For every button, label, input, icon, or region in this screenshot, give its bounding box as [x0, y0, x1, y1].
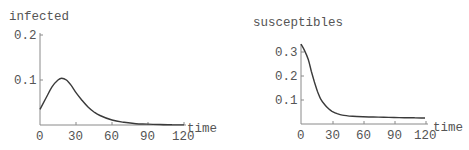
- infected-plot: infected 0.2 0.1 0 30 60 90 120 time: [9, 10, 217, 144]
- infected-x-tick-label: 0: [36, 130, 44, 144]
- plots-canvas: infected 0.2 0.1 0 30 60 90 120 time sus…: [0, 0, 469, 150]
- susceptibles-x-tick-label: 90: [387, 129, 402, 143]
- susceptibles-x-tick-label: 30: [325, 129, 340, 143]
- susceptibles-x-tick-label: 60: [356, 129, 371, 143]
- susceptibles-y-tick-label: 0.2: [275, 70, 298, 84]
- susceptibles-y-tick-label: 0.3: [275, 46, 298, 60]
- susceptibles-title: susceptibles: [253, 16, 343, 30]
- infected-y-tick-label: 0.1: [14, 74, 37, 88]
- infected-y-tick-label: 0.2: [14, 29, 37, 43]
- susceptibles-y-tick-label: 0.1: [275, 94, 298, 108]
- infected-x-axis-label: time: [187, 122, 217, 136]
- infected-x-tick-label: 30: [68, 130, 83, 144]
- infected-title: infected: [9, 10, 69, 24]
- susceptibles-curve: [301, 44, 425, 118]
- susceptibles-x-axis-label: time: [433, 121, 463, 135]
- susceptibles-plot: susceptibles 0.3 0.2 0.1 0 30 60 90 120 …: [253, 16, 463, 143]
- infected-curve: [40, 78, 184, 125]
- infected-x-tick-label: 90: [140, 130, 155, 144]
- susceptibles-x-tick-label: 0: [297, 129, 305, 143]
- infected-x-tick-label: 60: [104, 130, 119, 144]
